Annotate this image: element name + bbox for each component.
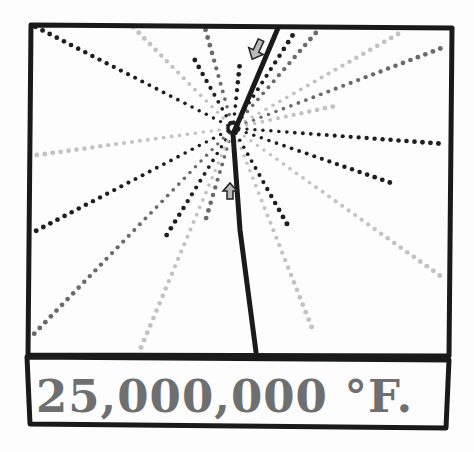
ray-10 <box>237 127 441 146</box>
ray-13 <box>234 132 315 330</box>
ray-12 <box>236 130 442 278</box>
ray-17 <box>139 132 233 350</box>
temperature-caption: 25,000,000 °F. <box>36 372 436 422</box>
ray-20 <box>34 127 228 157</box>
ray-16 <box>164 131 231 237</box>
ray-14 <box>234 132 289 227</box>
ray-2 <box>203 27 233 124</box>
ray-0 <box>33 24 229 127</box>
ray-18 <box>32 131 231 336</box>
ray-3 <box>192 58 231 125</box>
wire-line <box>233 28 278 352</box>
ray-1 <box>131 25 231 126</box>
